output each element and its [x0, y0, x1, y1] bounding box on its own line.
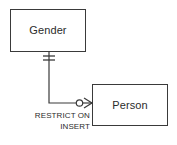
crows-foot-with-circle-icon [76, 98, 92, 108]
entity-label-person: Person [112, 100, 147, 111]
entity-box-person[interactable]: Person [92, 84, 168, 126]
relationship-constraint-label: RESTRICT ON INSERT [14, 110, 90, 132]
constraint-label-line-1: RESTRICT ON [14, 110, 90, 121]
er-diagram-canvas: Gender Person RESTRICT ON INSERT [0, 0, 177, 145]
constraint-label-line-2: INSERT [14, 121, 90, 132]
entity-label-gender: Gender [29, 25, 66, 36]
entity-box-gender[interactable]: Gender [10, 9, 86, 52]
double-bar-icon [43, 56, 55, 60]
relationship-path [49, 52, 76, 103]
